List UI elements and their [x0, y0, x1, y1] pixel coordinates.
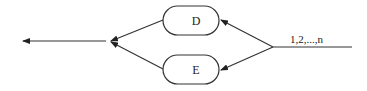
- node-e-label: E: [192, 63, 199, 77]
- flow-diagram: 1,2,...,n D E: [0, 0, 367, 91]
- arrow-to-d: [221, 20, 273, 47]
- input-label: 1,2,...,n: [290, 33, 324, 45]
- arrow-from-e: [111, 42, 163, 69]
- arrow-to-e: [221, 47, 273, 70]
- node-d-label: D: [192, 14, 201, 28]
- node-e: [163, 55, 219, 84]
- arrow-from-d: [111, 20, 163, 41]
